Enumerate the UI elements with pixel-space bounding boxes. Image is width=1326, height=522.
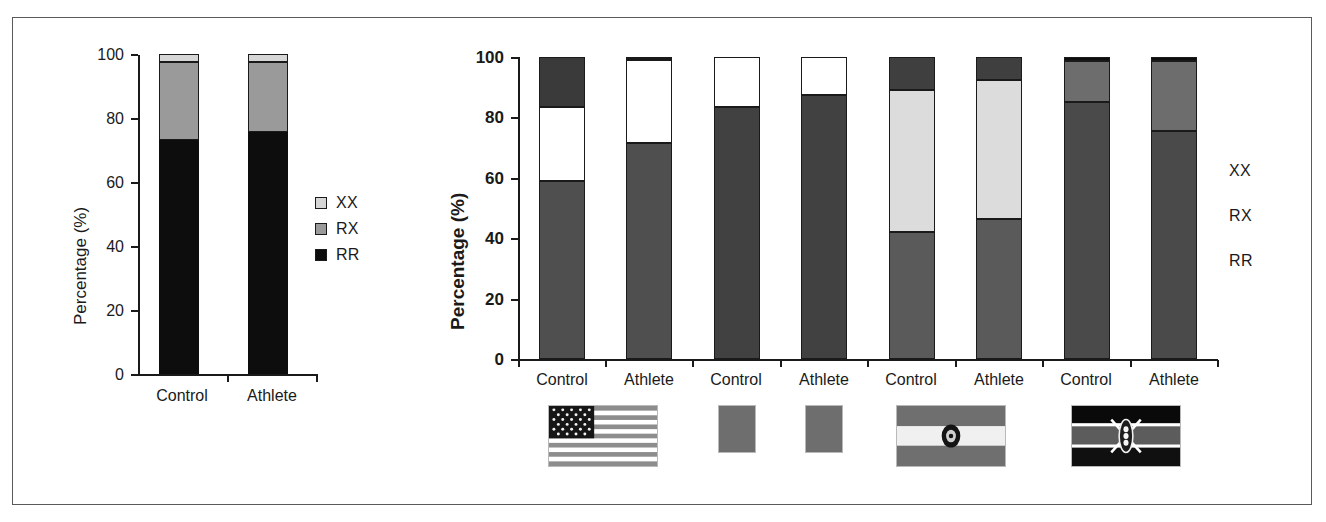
left-ytick-80: 80: [88, 111, 124, 127]
left-xlabel-control: Control: [140, 388, 224, 404]
right-bar-4-jamaica-athlete: [801, 57, 847, 359]
flag-kenya-icon: [1071, 405, 1181, 467]
legend-item-rr: RR: [315, 242, 360, 268]
right-legend-label-xx: XX: [1229, 163, 1251, 179]
left-bar-control-seg-XX: [159, 54, 199, 62]
right-bar-4-seg-RX: [801, 57, 847, 95]
legend-swatch-xx-icon: [315, 197, 327, 209]
left-bar-athlete: [248, 54, 288, 374]
right-ytick-0: 0: [466, 351, 504, 368]
right-ytick-60: 60: [466, 170, 504, 187]
right-xlabel-6: Athlete: [955, 372, 1043, 388]
right-xlabel-8: Athlete: [1130, 372, 1218, 388]
legend-swatch-rr-icon: [315, 249, 327, 261]
right-bar-1-seg-RR: [539, 181, 585, 359]
left-bar-athlete-seg-RX: [248, 62, 288, 132]
right-xlabel-3: Control: [692, 372, 780, 388]
legend-label-rx: RX: [336, 221, 359, 237]
right-bar-2-seg-RX: [626, 60, 672, 143]
right-bar-5-seg-RX: [889, 90, 935, 232]
right-bar-5-seg-XX: [889, 57, 935, 90]
right-bar-6-seg-RR: [976, 219, 1022, 359]
right-ytick-80: 80: [466, 109, 504, 126]
right-bar-6-seg-RX: [976, 80, 1022, 219]
right-xlabel-1: Control: [518, 372, 606, 388]
right-xlabel-7: Control: [1042, 372, 1130, 388]
right-legend-label-rx: RX: [1229, 208, 1252, 224]
legend-label-xx: XX: [336, 195, 358, 211]
left-ytick-40: 40: [88, 239, 124, 255]
flag-plain-gray-a-icon: [718, 405, 756, 453]
right-bar-5-nigeria-control: [889, 57, 935, 359]
legend-label-rr: RR: [336, 247, 360, 263]
figure-root: Percentage (%) 0 20 40 60 80 100 Control…: [0, 0, 1326, 522]
right-bar-7-seg-RX: [1064, 61, 1110, 102]
left-chart-panel: Percentage (%) 0 20 40 60 80 100 Control…: [30, 25, 410, 495]
right-y-axis-title: Percentage (%): [448, 193, 467, 330]
right-bar-8-seg-RX: [1151, 61, 1197, 131]
right-xlabel-4: Athlete: [780, 372, 868, 388]
right-bar-1-seg-RX: [539, 107, 585, 181]
left-chart-legend: XX RX RR: [315, 190, 360, 268]
right-bar-2-seg-RR: [626, 143, 672, 359]
right-ytick-20: 20: [466, 291, 504, 308]
right-xlabel-2: Athlete: [605, 372, 693, 388]
flag-nigeria-icon: [896, 405, 1006, 467]
left-ytick-60: 60: [88, 175, 124, 191]
right-chart-legend: XX RX RR: [1225, 25, 1305, 365]
right-legend-label-rr: RR: [1229, 253, 1253, 269]
legend-swatch-rx-icon: [315, 223, 327, 235]
left-ytick-20: 20: [88, 303, 124, 319]
left-ytick-0: 0: [88, 367, 124, 383]
right-chart-panel: Percentage (%) 0 20 40 60 80 100: [430, 25, 1310, 495]
left-bar-athlete-seg-RR: [248, 132, 288, 374]
right-bar-2-usa-athlete: [626, 57, 672, 359]
left-bar-athlete-seg-XX: [248, 54, 288, 62]
right-bar-7-kenya-control: [1064, 57, 1110, 359]
right-bar-1-seg-XX: [539, 57, 585, 107]
right-bar-3-seg-RX: [714, 57, 760, 107]
right-bar-3-seg-RR: [714, 107, 760, 359]
left-bar-control-seg-RR: [159, 140, 199, 374]
right-bar-4-seg-RR: [801, 95, 847, 359]
right-bar-5-seg-RR: [889, 232, 935, 359]
flag-plain-gray-b-icon: [805, 405, 843, 453]
legend-item-rx: RX: [315, 216, 360, 242]
left-bar-control: [159, 54, 199, 374]
right-bar-1-usa-control: [539, 57, 585, 359]
right-bar-3-jamaica-control: [714, 57, 760, 359]
left-bar-control-seg-RX: [159, 62, 199, 140]
flag-usa-icon: [548, 405, 658, 467]
left-y-axis-title: Percentage (%): [72, 207, 89, 325]
right-bar-8-kenya-athlete: [1151, 57, 1197, 359]
legend-item-xx: XX: [315, 190, 360, 216]
right-bar-8-seg-RR: [1151, 131, 1197, 359]
right-bar-7-seg-RR: [1064, 102, 1110, 359]
right-bar-6-seg-XX: [976, 57, 1022, 80]
right-xlabel-5: Control: [867, 372, 955, 388]
right-ytick-40: 40: [466, 230, 504, 247]
left-ytick-100: 100: [82, 47, 124, 63]
right-ytick-100: 100: [458, 49, 504, 66]
left-xlabel-athlete: Athlete: [230, 388, 314, 404]
right-bar-6-nigeria-athlete: [976, 57, 1022, 359]
